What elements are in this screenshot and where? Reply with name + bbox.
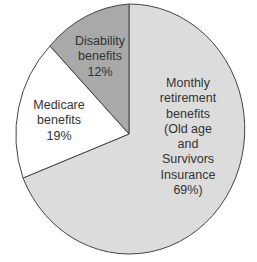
label-line: Monthly: [160, 76, 216, 91]
label-line: (Old age: [160, 122, 216, 137]
label-line: benefits: [160, 107, 216, 122]
label-line: Survivors: [160, 152, 216, 167]
label-line: 69%): [160, 183, 216, 198]
label-line: 19%: [33, 129, 84, 144]
label-line: Disability: [75, 34, 125, 49]
label-medicare: Medicare benefits 19%: [33, 98, 84, 144]
label-retirement: Monthly retirement benefits (Old age and…: [160, 76, 216, 198]
label-line: 12%: [75, 65, 125, 80]
label-line: and: [160, 137, 216, 152]
label-disability: Disability benefits 12%: [75, 34, 125, 80]
label-line: benefits: [33, 113, 84, 128]
label-line: Medicare: [33, 98, 84, 113]
label-line: benefits: [75, 49, 125, 64]
label-line: Insurance: [160, 168, 216, 183]
label-line: retirement: [160, 91, 216, 106]
